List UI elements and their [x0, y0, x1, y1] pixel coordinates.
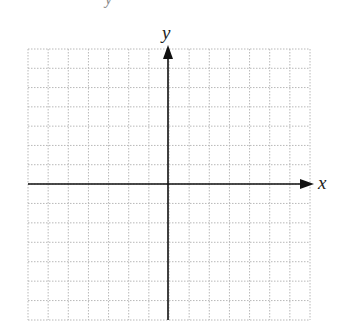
x-axis-arrow-icon — [300, 179, 314, 189]
coordinate-plane: y y x — [0, 0, 339, 323]
y-axis-arrow-icon — [163, 45, 173, 59]
x-axis-label: x — [318, 172, 326, 194]
grid-svg — [0, 0, 339, 323]
y-axis-label: y — [162, 22, 170, 44]
